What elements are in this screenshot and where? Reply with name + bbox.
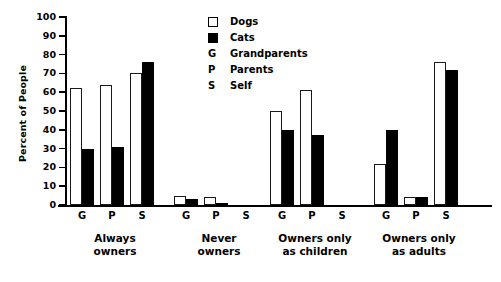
y-tick — [59, 129, 66, 131]
y-tick — [59, 204, 66, 206]
y-tick-label: 70 — [16, 68, 56, 78]
x-group-label: Owners onlyas children — [255, 232, 375, 258]
x-sublabel-s: S — [132, 211, 152, 221]
legend-item-parents: P Parents — [208, 62, 308, 77]
bar-dogs — [270, 111, 282, 205]
y-tick — [59, 91, 66, 93]
y-tick-label: 20 — [16, 162, 56, 172]
bar-dogs — [174, 196, 186, 205]
y-tick-label: 80 — [16, 50, 56, 60]
y-tick — [59, 35, 66, 37]
legend-label-cats: Cats — [230, 33, 255, 43]
x-group-label: Owners onlyas adults — [359, 232, 479, 258]
x-group-label: Alwaysowners — [55, 232, 175, 258]
legend-item-dogs: Dogs — [208, 14, 308, 29]
y-tick-label: 100 — [16, 12, 56, 22]
y-tick-label: 30 — [16, 144, 56, 154]
bar-cats — [142, 62, 154, 205]
bar-dogs — [70, 88, 82, 205]
x-sublabel-p: P — [206, 211, 226, 221]
legend-item-self: S Self — [208, 78, 308, 93]
dogs-swatch-icon — [208, 17, 230, 27]
bar-cats — [446, 70, 458, 205]
bar-cats — [186, 199, 198, 205]
bar-dogs — [434, 62, 446, 205]
legend: Dogs Cats G Grandparents P Parents S Sel… — [208, 14, 308, 94]
bar-cats — [312, 135, 324, 205]
bar-cats — [112, 147, 124, 205]
y-tick — [59, 73, 66, 75]
x-sublabel-p: P — [302, 211, 322, 221]
y-tick-label: 40 — [16, 125, 56, 135]
bar-cats — [386, 130, 398, 205]
x-sublabel-g: G — [376, 211, 396, 221]
bar-dogs — [130, 73, 142, 205]
bar-dogs — [100, 85, 112, 205]
bar-cats — [282, 130, 294, 205]
legend-key-g: G — [208, 49, 230, 59]
legend-item-cats: Cats — [208, 30, 308, 45]
y-tick — [59, 148, 66, 150]
y-tick-label: 50 — [16, 106, 56, 116]
y-tick-label: 60 — [16, 87, 56, 97]
x-axis-line — [58, 205, 492, 207]
y-tick — [59, 16, 66, 18]
x-sublabel-p: P — [102, 211, 122, 221]
bar-cats — [82, 149, 94, 205]
y-tick-label: 10 — [16, 181, 56, 191]
legend-key-s: S — [208, 81, 230, 91]
y-tick — [59, 54, 66, 56]
bar-dogs — [204, 197, 216, 205]
bar-chart: Percent of People 1009080706050403020100… — [0, 0, 501, 282]
y-tick — [59, 167, 66, 169]
bar-cats — [416, 197, 428, 205]
bar-dogs — [374, 164, 386, 205]
bar-dogs — [404, 197, 416, 205]
cats-swatch-icon — [208, 33, 230, 43]
y-tick-label: 90 — [16, 31, 56, 41]
legend-item-grandparents: G Grandparents — [208, 46, 308, 61]
y-tick — [59, 110, 66, 112]
legend-label-self: Self — [230, 81, 252, 91]
x-sublabel-p: P — [406, 211, 426, 221]
x-sublabel-g: G — [272, 211, 292, 221]
bar-dogs — [300, 90, 312, 205]
legend-label-dogs: Dogs — [230, 17, 258, 27]
x-sublabel-g: G — [72, 211, 92, 221]
legend-label-grandparents: Grandparents — [230, 49, 308, 59]
y-tick-label: 0 — [16, 200, 56, 210]
bar-cats — [216, 203, 228, 205]
y-tick — [59, 185, 66, 187]
legend-label-parents: Parents — [230, 65, 273, 75]
x-sublabel-s: S — [236, 211, 256, 221]
x-sublabel-s: S — [332, 211, 352, 221]
legend-key-p: P — [208, 65, 230, 75]
x-sublabel-g: G — [176, 211, 196, 221]
x-sublabel-s: S — [436, 211, 456, 221]
